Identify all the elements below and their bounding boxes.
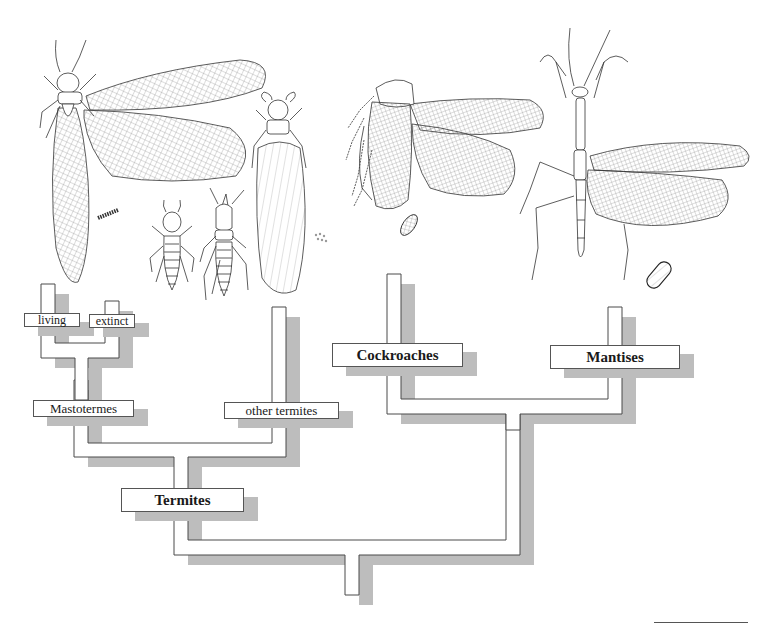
label-living: living xyxy=(24,313,80,327)
termite-soldier-illustration xyxy=(200,188,248,300)
label-other-termites: other termites xyxy=(224,402,339,419)
termite-worker-illustration xyxy=(150,200,194,290)
mantis-ootheca-illustration xyxy=(644,259,674,291)
cockroach-ootheca-illustration xyxy=(397,212,421,239)
termite-egg-pod-illustration xyxy=(98,210,118,218)
scale-bar xyxy=(654,622,748,623)
termite-alate-illustration xyxy=(252,92,306,293)
pipe-mastotermes-clade xyxy=(41,284,119,400)
label-cockroaches: Cockroaches xyxy=(332,343,463,367)
label-mantises: Mantises xyxy=(550,345,680,369)
label-mastotermes: Mastotermes xyxy=(33,400,134,417)
mantis-winged-adult-illustration xyxy=(520,28,749,280)
termite-eggs-illustration xyxy=(315,233,327,242)
label-extinct: extinct xyxy=(89,314,135,328)
label-termites: Termites xyxy=(121,488,244,512)
cockroach-winged-adult-illustration xyxy=(346,80,543,209)
